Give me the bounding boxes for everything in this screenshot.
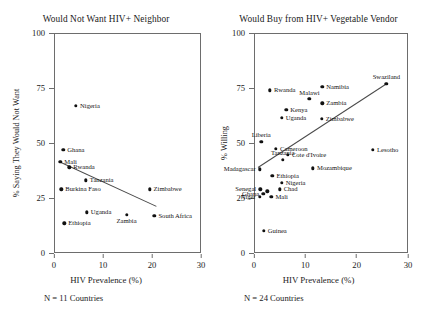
x-tick-left-30: 30: [197, 254, 206, 270]
x-tick-right-0: 0: [252, 254, 256, 270]
point-label-lesotho: Lesotho: [377, 146, 398, 153]
point-label-malawi: Malawi: [299, 89, 319, 96]
x-tick-left-20: 20: [148, 254, 157, 270]
panel-would-buy-from-hiv-vegetable-vendor: Would Buy from HIV+ Vegetable Vendor 025…: [212, 0, 425, 318]
y-tick-left-25: 25: [24, 193, 54, 203]
x-tick-right-10: 10: [301, 254, 310, 270]
panel-title-left: Would Not Want HIV+ Neighbor: [0, 14, 212, 24]
y-tick-left-100: 100: [24, 28, 54, 38]
sample-size-note-left: N = 11 Countries: [44, 293, 103, 303]
sample-size-note-right: N = 24 Countries: [244, 293, 304, 303]
point-label-mozambique: Mozambique: [317, 165, 352, 172]
x-tick-right-20: 20: [352, 254, 361, 270]
x-axis-label-left: HIV Prevalence (%): [0, 275, 212, 285]
point-label-uganda: Uganda: [286, 114, 307, 121]
point-label-burkina-faso: Burkina Faso: [65, 186, 100, 193]
point-label-zambia: Zambia: [116, 218, 136, 225]
plot-area-right: [254, 33, 408, 253]
y-tick-left-50: 50: [24, 138, 54, 148]
y-tick-left-0: 0: [24, 248, 54, 258]
y-tick-left-75: 75: [24, 83, 54, 93]
point-label-rwanda: Rwanda: [73, 164, 95, 171]
point-label-guinea: Guinea: [268, 228, 287, 235]
x-tick-right-30: 30: [404, 254, 413, 270]
point-label-madagascar: Madagascar: [224, 166, 256, 173]
point-label-zimbabwe: Zimbabwe: [154, 186, 182, 193]
point-label-zambia: Zambia: [326, 100, 346, 107]
panel-would-not-want-hiv-neighbor: Would Not Want HIV+ Neighbor 0255075100 …: [0, 0, 212, 318]
point-label-rwanda: Rwanda: [274, 87, 296, 94]
point-label-uganda: Uganda: [91, 209, 112, 216]
point-label-namibia: Namibia: [326, 84, 349, 91]
x-axis-label-right: HIV Prevalence (%): [212, 275, 425, 285]
panel-title-right: Would Buy from HIV+ Vegetable Vendor: [212, 14, 425, 24]
x-tick-left-10: 10: [99, 254, 108, 270]
y-axis-label-right: % Willing: [220, 126, 229, 160]
point-label-ethiopia: Ethiopia: [68, 220, 90, 227]
point-label-south-africa: South Africa: [158, 212, 192, 219]
point-label-cote-d-ivoire: Cote d'Ivoire: [292, 152, 326, 159]
point-label-niger: Niger: [241, 194, 256, 201]
point-label-chad: Chad: [284, 186, 298, 193]
y-axis-label-left: % Saying They Would Not Want: [12, 89, 21, 198]
point-label-mali: Mali: [275, 194, 287, 201]
scatter-figure: Would Not Want HIV+ Neighbor 0255075100 …: [0, 0, 425, 318]
point-label-swaziland: Swaziland: [373, 74, 400, 81]
point-label-tanzania: Tanzania: [271, 150, 295, 157]
point-label-ghana: Ghana: [67, 146, 84, 153]
y-tick-right-75: 75: [224, 83, 254, 93]
point-label-tanzania: Tanzania: [90, 177, 114, 184]
point-label-kenya: Kenya: [290, 107, 307, 114]
point-label-zimbabwe: Zimbabwe: [326, 116, 354, 123]
y-tick-right-0: 0: [224, 248, 254, 258]
point-label-nigeria: Nigeria: [80, 102, 100, 109]
x-tick-left-0: 0: [52, 254, 56, 270]
point-label-liberia: Liberia: [252, 132, 271, 139]
y-tick-right-100: 100: [224, 28, 254, 38]
